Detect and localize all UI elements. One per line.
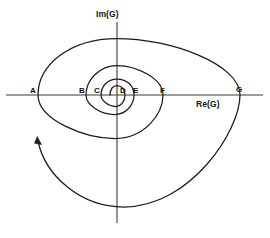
direction-arrow-icon xyxy=(34,137,41,145)
nyquist-figure: Im(G) Re(G) A B C D E F G xyxy=(0,0,270,238)
point-label-d: D xyxy=(120,86,126,95)
real-axis-label: Re(G) xyxy=(196,99,220,109)
point-label-b: B xyxy=(79,86,85,95)
point-label-c: C xyxy=(94,86,100,95)
imaginary-axis-label: Im(G) xyxy=(96,9,119,19)
point-label-g: G xyxy=(236,85,242,94)
point-label-f: F xyxy=(160,86,165,95)
nyquist-spiral-curve xyxy=(38,39,240,208)
point-label-e: E xyxy=(133,86,139,95)
plot-canvas: Im(G) Re(G) A B C D E F G xyxy=(0,0,270,238)
point-label-a: A xyxy=(30,86,36,95)
